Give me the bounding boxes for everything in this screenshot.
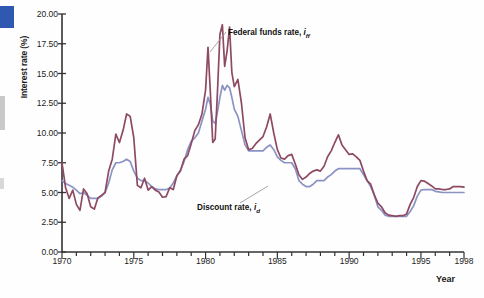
federal-funds-label-text: Federal funds rate, xyxy=(228,28,304,37)
discount-rate-label-text: Discount rate, xyxy=(197,203,254,212)
discount-rate-series-label: Discount rate, id xyxy=(197,203,260,214)
federal-funds-series-label: Federal funds rate, iff xyxy=(228,28,310,39)
axes-group xyxy=(58,14,464,259)
interest-rate-chart-figure: Interest rate (%) Year 0.002.505.007.501… xyxy=(0,0,484,298)
x-axis-ticks xyxy=(62,252,464,259)
federal-funds-rate-line xyxy=(62,25,464,217)
discount-rate-leader-line xyxy=(240,186,268,203)
discount-rate-label-subscript: d xyxy=(256,207,260,214)
discount-rate-line xyxy=(62,85,464,216)
plot-canvas xyxy=(0,0,484,298)
data-series-group xyxy=(62,25,464,217)
federal-funds-label-subscript: ff xyxy=(306,32,310,39)
